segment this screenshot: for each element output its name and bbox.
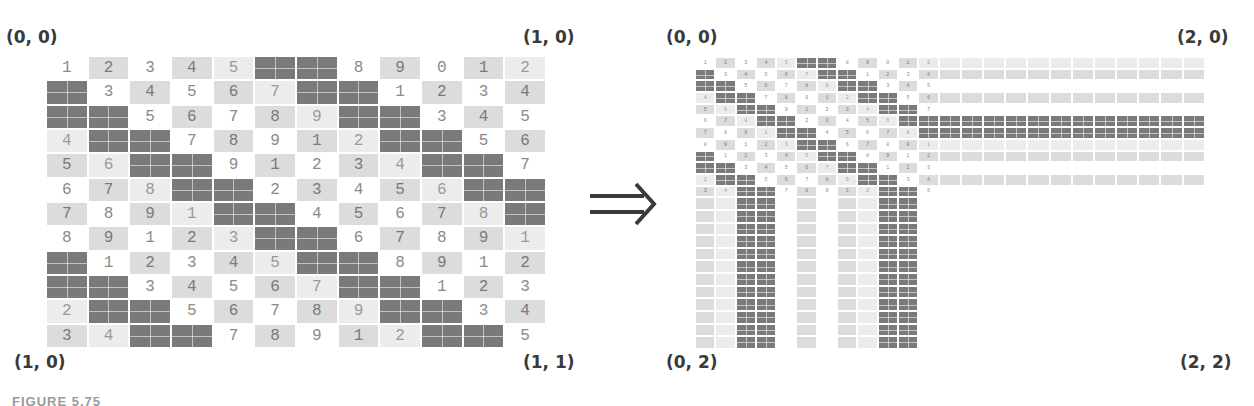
clamped-cell [1005, 139, 1027, 151]
clamped-cell [1050, 336, 1072, 349]
texture-cell: 2 [296, 153, 338, 177]
texture-cell: 1 [296, 129, 338, 153]
clamped-cell [1005, 162, 1027, 174]
clamped-cell [776, 311, 796, 324]
clamped-cell [1116, 210, 1138, 223]
texture-cell [715, 80, 735, 92]
clamped-cell [1094, 104, 1116, 116]
texture-cell: 3 [338, 153, 380, 177]
clamped-cell [1005, 186, 1027, 198]
clamped-cell [898, 235, 918, 248]
clamped-cell [1183, 324, 1205, 337]
clamped-cell [1160, 127, 1182, 139]
clamped-cell [1138, 115, 1160, 127]
clamped-cell [1050, 174, 1072, 186]
texture-cell: 2 [736, 151, 756, 163]
texture-cell: 3 [129, 56, 171, 80]
clamped-cell [776, 223, 796, 236]
texture-cell: 1 [756, 127, 776, 139]
clamped-cell [961, 311, 983, 324]
texture-cell [338, 251, 380, 275]
clamped-cell [1072, 210, 1094, 223]
texture-cell: 1 [857, 69, 877, 81]
texture-cell: 7 [715, 115, 735, 127]
texture-cell [837, 162, 857, 174]
texture-cell: 1 [695, 57, 715, 69]
clamped-cell [715, 298, 735, 311]
texture-cell: 6 [213, 80, 255, 104]
texture-cell: 7 [379, 226, 421, 250]
clamped-cell [817, 298, 837, 311]
texture-cell [837, 69, 857, 81]
clamped-cell [1094, 223, 1116, 236]
implies-arrow-icon [588, 178, 658, 228]
texture-cell: 6 [715, 104, 735, 116]
texture-cell: 3 [918, 162, 938, 174]
clamped-cell [756, 311, 776, 324]
clamped-cell [1050, 273, 1072, 286]
clamped-cell [1160, 139, 1182, 151]
clamped-cell [983, 80, 1005, 92]
texture-cell [695, 80, 715, 92]
clamped-cell [1072, 174, 1094, 186]
texture-cell [756, 104, 776, 116]
clamped-cell [837, 197, 857, 210]
clamped-cell [918, 336, 938, 349]
texture-cell: 2 [504, 251, 546, 275]
texture-cell: 4 [715, 186, 735, 198]
texture-cell: 2 [918, 151, 938, 163]
texture-cell [898, 104, 918, 116]
texture-cell: 4 [504, 299, 546, 323]
texture-cell: 0 [421, 56, 463, 80]
texture-cell: 4 [129, 80, 171, 104]
texture-cell [918, 115, 938, 127]
clamped-cell [939, 273, 961, 286]
texture-cell: 9 [817, 186, 837, 198]
clamped-cell [983, 311, 1005, 324]
texture-cell: 4 [46, 129, 88, 153]
clamped-cell [1027, 324, 1049, 337]
clamped-cell [695, 286, 715, 299]
texture-cell: 7 [254, 299, 296, 323]
texture-cell: 6 [878, 115, 898, 127]
clamped-cell [1094, 139, 1116, 151]
clamped-cell [857, 298, 877, 311]
clamped-cell [1072, 311, 1094, 324]
texture-cell: 5 [338, 202, 380, 226]
clamped-cell [1072, 57, 1094, 69]
clamped-cell [1116, 248, 1138, 261]
texture-cell: 2 [695, 174, 715, 186]
texture-cell [715, 92, 735, 104]
clamped-cell [1116, 174, 1138, 186]
texture-cell [46, 275, 88, 299]
texture-cell [837, 80, 857, 92]
clamped-cell [776, 324, 796, 337]
texture-cell: 8 [796, 186, 816, 198]
clamped-cell [939, 162, 961, 174]
clamped-cell [1005, 80, 1027, 92]
texture-cell: 4 [776, 151, 796, 163]
clamped-cell [1160, 92, 1182, 104]
clamped-cell [1050, 162, 1072, 174]
clamped-cell [1072, 273, 1094, 286]
texture-cell: 7 [254, 80, 296, 104]
clamped-cell [961, 223, 983, 236]
texture-cell [463, 324, 505, 348]
clamped-cell [1160, 324, 1182, 337]
texture-cell: 5 [756, 69, 776, 81]
clamped-cell [1094, 92, 1116, 104]
clamped-cell [878, 336, 898, 349]
clamped-cell [1183, 235, 1205, 248]
texture-cell: 9 [296, 105, 338, 129]
clamped-cell [898, 298, 918, 311]
clamped-cell [983, 336, 1005, 349]
texture-cell: 1 [837, 186, 857, 198]
texture-cell: 8 [254, 324, 296, 348]
texture-cell [756, 115, 776, 127]
clamped-cell [939, 80, 961, 92]
clamped-cell [776, 298, 796, 311]
clamped-cell [796, 336, 816, 349]
clamped-cell [1116, 186, 1138, 198]
texture-cell: 4 [817, 127, 837, 139]
clamped-cell [1160, 197, 1182, 210]
